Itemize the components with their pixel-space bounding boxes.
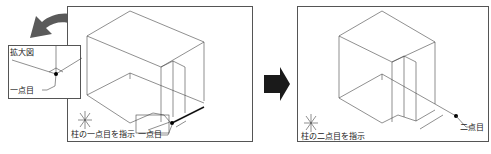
step2-viewport: 柱の二点目を指示 二点目 bbox=[297, 6, 489, 142]
axis-icon bbox=[304, 114, 318, 132]
callout-label: 二点目 bbox=[460, 123, 484, 132]
prompt-text: 柱の二点目を指示 bbox=[301, 132, 365, 141]
